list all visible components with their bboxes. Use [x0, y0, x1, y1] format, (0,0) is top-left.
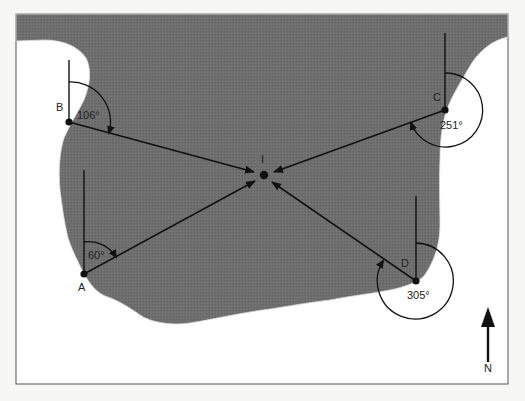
station-b-label: B — [56, 101, 63, 113]
target-label: I — [261, 153, 264, 165]
station-d-label: D — [401, 257, 409, 269]
station-c-label: C — [433, 91, 441, 103]
target-point — [260, 171, 268, 179]
station-c-point — [441, 106, 448, 113]
north-arrow-label: N — [484, 362, 492, 374]
bearing-diagram: A B C D I 60° 106° 251° 305° N — [0, 0, 525, 401]
angle-label-a: 60° — [88, 249, 105, 261]
station-d-point — [412, 277, 419, 284]
angle-label-b: 106° — [77, 109, 100, 121]
station-b-point — [65, 118, 72, 125]
angle-label-d: 305° — [407, 289, 430, 301]
station-a-label: A — [78, 281, 86, 293]
station-a-point — [80, 270, 87, 277]
angle-label-c: 251° — [440, 119, 463, 131]
